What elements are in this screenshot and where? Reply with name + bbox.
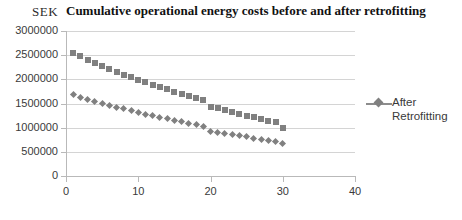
x-tick-mark <box>66 177 67 182</box>
data-point-marker <box>120 105 127 112</box>
x-tick-label: 0 <box>46 186 86 197</box>
data-point-marker <box>164 86 170 92</box>
data-point-marker <box>229 109 235 115</box>
data-point-marker <box>142 111 149 118</box>
x-tick-label: 10 <box>118 186 158 197</box>
y-tick-label: 500000 <box>21 146 58 157</box>
data-point-marker <box>164 115 171 122</box>
y-tick-label: 3000000 <box>15 25 58 36</box>
data-point-marker <box>114 69 120 75</box>
x-axis-line <box>66 176 356 177</box>
data-point-marker <box>221 130 228 137</box>
x-tick-label: 40 <box>335 186 375 197</box>
y-tick-label: 2500000 <box>15 49 58 60</box>
legend: After Retrofitting <box>366 96 462 123</box>
chart-container: SEK Cumulative operational energy costs … <box>0 0 462 220</box>
data-point-marker <box>128 74 134 80</box>
data-point-marker <box>178 118 185 125</box>
data-point-marker <box>70 91 77 98</box>
data-point-marker <box>106 102 113 109</box>
data-point-marker <box>91 98 98 105</box>
data-point-marker <box>251 114 257 120</box>
y-tick-label: 2000000 <box>15 73 58 84</box>
x-tick-mark <box>138 177 139 182</box>
data-point-marker <box>171 117 178 124</box>
y-axis-unit-label: SEK <box>32 4 58 20</box>
data-point-marker <box>92 60 98 66</box>
data-point-marker <box>99 63 105 69</box>
data-point-marker <box>215 105 221 111</box>
y-tick-label: 1000000 <box>15 122 58 133</box>
data-point-marker <box>250 135 257 142</box>
data-point-marker <box>85 57 91 63</box>
data-point-marker <box>185 120 192 127</box>
data-point-marker <box>157 84 163 90</box>
data-point-marker <box>200 97 206 103</box>
data-point-marker <box>243 133 250 140</box>
data-point-marker <box>135 77 141 83</box>
data-point-marker <box>236 111 242 117</box>
data-point-marker <box>127 107 134 114</box>
data-point-marker <box>77 53 83 59</box>
data-point-marker <box>77 94 84 101</box>
data-point-marker <box>179 91 185 97</box>
y-tick-label: 0 <box>52 170 58 181</box>
data-point-marker <box>156 114 163 121</box>
data-point-marker <box>106 66 112 72</box>
data-point-marker <box>279 140 286 147</box>
data-point-marker <box>207 128 214 135</box>
legend-diamond-marker-icon <box>366 97 392 110</box>
data-point-marker <box>150 82 156 88</box>
data-point-marker <box>135 109 142 116</box>
data-point-marker <box>149 112 156 119</box>
data-point-marker <box>121 72 127 78</box>
data-point-marker <box>171 89 177 95</box>
legend-item-after-retrofitting[interactable]: After Retrofitting <box>366 96 462 123</box>
plot-area <box>66 31 355 176</box>
data-point-marker <box>265 118 271 124</box>
data-point-marker <box>208 104 214 110</box>
legend-diamond <box>374 98 384 108</box>
data-point-marker <box>84 96 91 103</box>
data-point-marker <box>265 137 272 144</box>
data-point-marker <box>273 119 279 125</box>
x-tick-mark <box>211 177 212 182</box>
data-point-marker <box>142 79 148 85</box>
data-point-marker <box>272 138 279 145</box>
data-point-marker <box>280 125 286 131</box>
x-tick-label: 30 <box>263 186 303 197</box>
chart-title: Cumulative operational energy costs befo… <box>66 3 462 19</box>
data-point-marker <box>244 113 250 119</box>
x-tick-label: 20 <box>191 186 231 197</box>
data-point-marker <box>214 129 221 136</box>
x-tick-mark <box>283 177 284 182</box>
data-point-marker <box>186 93 192 99</box>
data-point-marker <box>222 107 228 113</box>
y-tick-label: 1500000 <box>15 98 58 109</box>
data-point-marker <box>229 131 236 138</box>
data-point-marker <box>193 121 200 128</box>
data-point-marker <box>70 50 76 56</box>
data-point-marker <box>113 104 120 111</box>
legend-label-after-retrofitting: After Retrofitting <box>392 96 448 123</box>
data-point-marker <box>99 100 106 107</box>
data-point-marker <box>258 116 264 122</box>
data-point-marker <box>193 95 199 101</box>
x-tick-mark <box>355 177 356 182</box>
data-point-marker <box>258 136 265 143</box>
data-point-marker <box>200 123 207 130</box>
